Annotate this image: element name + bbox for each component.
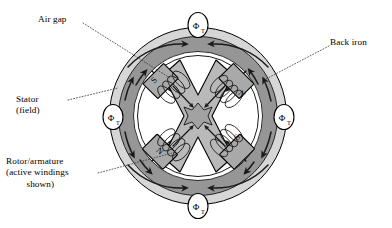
flux-badge-left-symbol: Φ <box>108 113 115 123</box>
label-back-iron: Back iron <box>330 37 367 48</box>
flux-badge-right: Φ T <box>274 105 294 130</box>
label-rotor: Rotor/armature (active windings shown) <box>6 156 69 190</box>
label-rotor-line1: Rotor/armature <box>6 156 64 166</box>
label-back-iron-text: Back iron <box>330 37 367 47</box>
flux-badge-right-symbol: Φ <box>279 113 286 123</box>
flux-badge-right-subscript: T <box>287 119 291 126</box>
label-stator: Stator (field) <box>16 94 40 117</box>
flux-badge-bottom-subscript: T <box>201 208 205 215</box>
flux-badge-top-symbol: Φ <box>193 21 200 31</box>
label-air-gap-text: Air gap <box>38 14 67 24</box>
flux-badge-left-subscript: T <box>116 119 120 126</box>
diagram-page: S N N S <box>0 0 392 228</box>
label-rotor-line2: (active windings <box>6 167 69 178</box>
flux-badge-bottom: Φ T <box>188 194 208 219</box>
machine-cross-section-svg: S N N S <box>0 0 392 228</box>
leader-stator <box>68 88 118 100</box>
flux-badge-bottom-symbol: Φ <box>193 202 200 212</box>
flux-badge-top-subscript: T <box>201 27 205 34</box>
label-air-gap: Air gap <box>38 14 67 25</box>
label-rotor-line3: shown) <box>6 179 69 190</box>
label-stator-line1: Stator <box>16 94 39 104</box>
label-stator-line2: (field) <box>16 105 40 116</box>
rotor-assembly: S N N S <box>142 60 254 172</box>
flux-badge-left: Φ T <box>103 105 123 130</box>
flux-badge-top: Φ T <box>188 13 208 38</box>
